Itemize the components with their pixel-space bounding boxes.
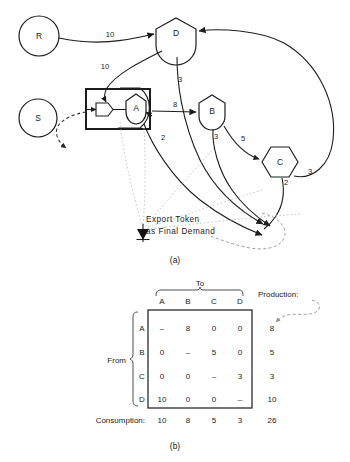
table-row: 0 – 5 0 5 (160, 348, 275, 357)
cell-a-d: 0 (238, 324, 243, 333)
to-brace (156, 287, 243, 296)
production-pointer (276, 300, 319, 322)
consumption-b: 8 (186, 416, 191, 425)
node-r-label: R (36, 31, 42, 41)
cell-c-a: 0 (160, 372, 165, 381)
node-s[interactable]: S (19, 99, 57, 137)
edge-d-to-a (105, 51, 162, 102)
cell-a-b: 8 (186, 324, 191, 333)
annotation-line-1: Export Token (146, 215, 200, 224)
table-to-label: To (196, 279, 205, 288)
cell-d-d: – (238, 395, 243, 404)
consumption-a: 10 (158, 416, 167, 425)
token-shape (86, 103, 126, 116)
panel-a-caption: (a) (170, 255, 181, 265)
edge-label-b-to-c: 5 (241, 134, 245, 143)
panel-b-caption: (b) (170, 441, 181, 451)
table-row-a: A (139, 324, 145, 333)
node-c[interactable]: C (262, 147, 298, 177)
table-from-label: From (107, 356, 126, 365)
table-col-c: C (211, 297, 217, 306)
node-a-label: A (133, 103, 139, 113)
production-c: 3 (270, 372, 275, 381)
cell-d-b: 0 (186, 395, 191, 404)
table-col-b: B (185, 297, 190, 306)
table-consumption-label: Consumption: (96, 416, 145, 425)
table-row-b: B (139, 348, 144, 357)
edge-label-c-to-d: 3 (308, 167, 312, 176)
consumption-d: 3 (238, 416, 243, 425)
production-b: 5 (270, 348, 275, 357)
edge-a-to-b (152, 111, 196, 112)
from-brace (130, 312, 138, 406)
grand-total: 26 (268, 416, 277, 425)
table-row-d: D (139, 395, 145, 404)
node-c-label: C (277, 157, 283, 167)
edge-label-a-export: 2 (161, 133, 165, 142)
node-s-label: S (35, 113, 41, 123)
cell-b-c: 5 (212, 348, 217, 357)
table-production-label: Production: (258, 290, 298, 299)
table-row: – 8 0 0 8 (160, 324, 275, 333)
node-d[interactable]: D (156, 18, 196, 65)
cell-d-a: 10 (158, 395, 167, 404)
edge-c-export (264, 178, 283, 229)
dashed-export-arrow (56, 112, 86, 148)
cell-a-a: – (160, 324, 165, 333)
table-row: 10 0 0 – 10 (158, 395, 277, 404)
edge-label-r-to-d: 10 (106, 30, 114, 39)
edge-d-export (177, 57, 263, 224)
cell-b-a: 0 (160, 348, 165, 357)
cell-c-b: 0 (186, 372, 191, 381)
table-row-c: C (139, 372, 145, 381)
table-row: 0 0 – 3 3 (160, 372, 275, 381)
edge-label-b-export: 3 (214, 132, 218, 141)
edge-label-a-to-b: 8 (173, 100, 177, 109)
production-d: 10 (268, 395, 277, 404)
node-r[interactable]: R (19, 16, 59, 56)
node-b[interactable]: B (199, 95, 225, 130)
cell-b-b: – (186, 348, 191, 357)
cell-d-c: 0 (212, 395, 217, 404)
table-col-d: D (237, 297, 243, 306)
cell-a-c: 0 (212, 324, 217, 333)
node-d-label: D (173, 28, 179, 38)
edge-label-c-export: 2 (284, 178, 288, 187)
production-a: 8 (270, 324, 275, 333)
annotation-line-2: as Final Demand (146, 227, 215, 236)
edge-label-d-to-a: 10 (101, 62, 109, 71)
cell-c-d: 3 (238, 372, 243, 381)
cell-c-c: – (212, 372, 217, 381)
edge-label-d-down: 3 (178, 75, 182, 84)
table-col-a: A (159, 297, 165, 306)
node-b-label: B (209, 106, 215, 116)
figure-container: R S D A B C 10 10 3 (0, 0, 350, 462)
consumption-c: 5 (212, 416, 217, 425)
edge-b-export (213, 129, 270, 226)
cell-b-d: 0 (238, 348, 243, 357)
node-a[interactable]: A (126, 94, 146, 124)
